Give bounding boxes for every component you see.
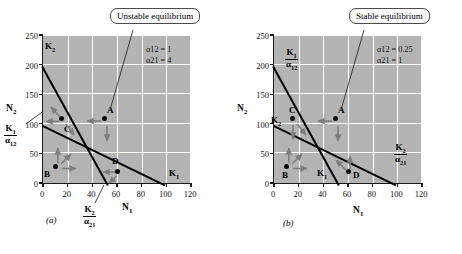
alpha12-a: α12 = 1 — [146, 44, 171, 55]
alpha21-b: α21 = 1 — [377, 55, 413, 66]
panel-label-a: (a) — [46, 215, 57, 225]
leader-lines-b — [231, 0, 462, 254]
leader-lines-a — [0, 0, 231, 254]
competition-isocline-figure: A B C D — [0, 0, 462, 254]
alpha21-a: α21 = 4 — [146, 55, 171, 66]
panel-a: A B C D — [0, 0, 231, 254]
callout-stable-equilibrium: Stable equilibrium — [349, 8, 430, 24]
panel-b: A B C D — [231, 0, 462, 254]
panel-label-b: (b) — [283, 218, 294, 228]
callout-unstable-equilibrium: Unstable equilibrium — [110, 8, 200, 24]
params-a: α12 = 1 α21 = 4 — [146, 44, 171, 66]
params-b: α12 = 0.25 α21 = 1 — [377, 44, 413, 66]
alpha12-b: α12 = 0.25 — [377, 44, 413, 55]
